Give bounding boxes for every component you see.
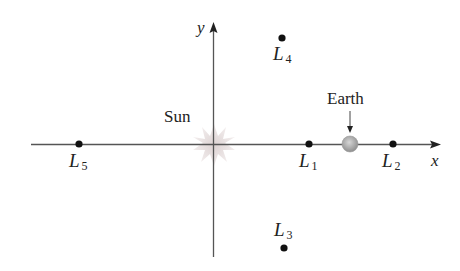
l1-dot-icon xyxy=(305,140,312,147)
l4-letter: L xyxy=(272,43,284,64)
l3-letter: L xyxy=(273,219,285,240)
sun-label: Sun xyxy=(164,107,191,126)
lagrange-point-l3: L3 xyxy=(273,219,293,252)
lagrange-point-l2: L2 xyxy=(381,140,401,173)
l5-dot-icon xyxy=(75,140,82,147)
l5-subscript: 5 xyxy=(82,159,88,173)
earth-globe-icon xyxy=(342,136,358,152)
l1-letter: L xyxy=(298,150,310,171)
l2-letter: L xyxy=(381,150,393,171)
l4-dot-icon xyxy=(278,34,285,41)
l5-letter: L xyxy=(68,150,80,171)
lagrange-point-l4: L4 xyxy=(272,34,292,66)
lagrange-point-l1: L1 xyxy=(298,140,318,173)
l2-dot-icon xyxy=(389,140,396,147)
l1-subscript: 1 xyxy=(312,159,318,173)
l4-subscript: 4 xyxy=(286,52,292,66)
l2-label: L2 xyxy=(381,150,401,173)
earth-label: Earth xyxy=(327,89,364,108)
earth: Earth xyxy=(327,89,364,152)
lagrange-points-diagram: x y Sun Earth L1 L2 L3 xyxy=(0,0,460,271)
x-axis-label: x xyxy=(430,151,439,170)
l3-label: L3 xyxy=(273,219,293,242)
lagrange-point-l5: L5 xyxy=(68,140,88,173)
x-axis: x xyxy=(31,141,441,171)
l2-subscript: 2 xyxy=(395,159,401,173)
earth-pointer-arrow-icon xyxy=(347,126,353,133)
l1-label: L1 xyxy=(298,150,318,173)
y-axis-label: y xyxy=(195,18,205,37)
l4-label: L4 xyxy=(272,43,292,66)
l5-label: L5 xyxy=(68,150,88,173)
l3-dot-icon xyxy=(280,244,287,251)
l3-subscript: 3 xyxy=(287,228,293,242)
